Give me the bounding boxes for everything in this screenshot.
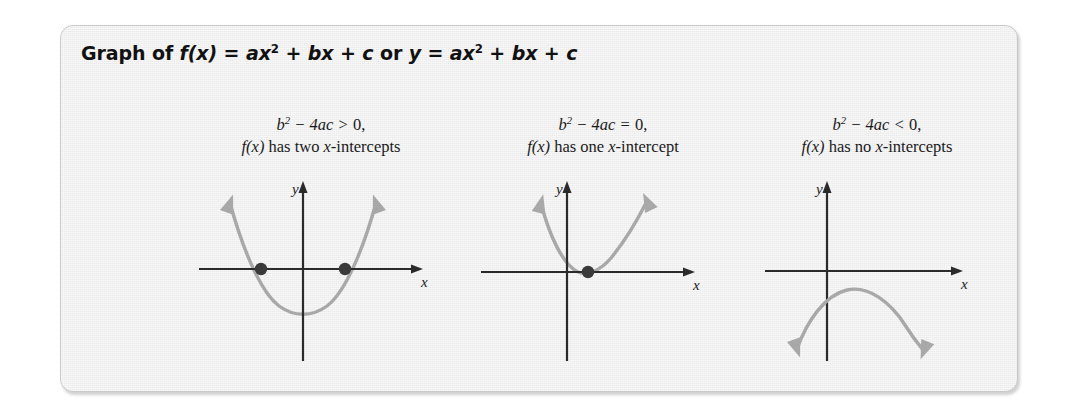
caption-two-intercepts: b2 − 4ac > 0, f(x) has two x-intercepts	[171, 114, 471, 159]
discriminant-b: b	[833, 115, 841, 134]
figure-panel: Graph of f(x) = ax2 + bx + c or y = ax2 …	[60, 25, 1018, 392]
discriminant-rest: − 4ac	[572, 115, 615, 134]
caption-line-2: f(x) has no x-intercepts	[727, 136, 1027, 158]
caption-line-1: b2 − 4ac > 0,	[171, 114, 471, 136]
x-axis	[765, 266, 963, 275]
caption-fn-arg: (x)	[532, 137, 550, 156]
x-axis	[199, 264, 423, 273]
title-expr1-a: ax	[246, 42, 271, 64]
case-one-intercept: b2 − 4ac = 0, f(x) has one x-intercept y…	[453, 114, 753, 363]
x-intercept-point	[582, 265, 594, 277]
title-prefix: Graph of	[81, 42, 180, 64]
caption-var-x: x	[324, 137, 331, 156]
caption-tail: -intercept	[616, 137, 679, 156]
caption-fn-arg: (x)	[806, 137, 824, 156]
title-expr2-exponent: 2	[475, 42, 483, 56]
caption-text: has two	[264, 137, 323, 156]
title-fn: f	[180, 42, 188, 64]
case-two-intercepts: b2 − 4ac > 0, f(x) has two x-intercepts	[171, 114, 471, 363]
page-title: Graph of f(x) = ax2 + bx + c or y = ax2 …	[81, 42, 577, 64]
title-fn-arg: (x)	[188, 42, 217, 64]
graph-one-intercept: y x	[475, 173, 715, 363]
x-axis-arrow	[411, 264, 423, 273]
y-axis-label: y	[554, 181, 563, 197]
x-axis-label: x	[960, 276, 968, 292]
caption-line-1: b2 − 4ac < 0,	[727, 114, 1027, 136]
x-axis-label: x	[692, 277, 700, 293]
discriminant-relation: <	[889, 115, 909, 134]
y-axis-arrow	[823, 181, 832, 193]
discriminant-relation: =	[615, 115, 635, 134]
discriminant-b: b	[559, 115, 567, 134]
caption-no-intercepts: b2 − 4ac < 0, f(x) has no x-intercepts	[727, 114, 1027, 159]
curve-arrow-left	[787, 337, 807, 360]
caption-one-intercept: b2 − 4ac = 0, f(x) has one x-intercept	[453, 114, 753, 159]
discriminant-rest: − 4ac	[846, 115, 889, 134]
caption-tail: -intercepts	[883, 137, 953, 156]
y-axis	[299, 181, 308, 361]
discriminant-relation: >	[333, 115, 353, 134]
caption-text: has no	[825, 137, 876, 156]
caption-fn-arg: (x)	[246, 137, 264, 156]
title-expr2-a: ax	[450, 42, 475, 64]
discriminant-b: b	[277, 115, 285, 134]
x-axis-arrow	[683, 267, 695, 276]
x-intercept-point-right	[339, 262, 351, 274]
curve-arrow-left	[532, 192, 550, 214]
curve-arrow-left	[220, 192, 240, 215]
caption-line-2: f(x) has two x-intercepts	[171, 136, 471, 158]
caption-text: has one	[550, 137, 608, 156]
x-intercept-point-left	[255, 262, 267, 274]
title-expr1-rest: + bx + c	[279, 42, 374, 64]
graph-no-intercepts: y x	[759, 173, 999, 363]
discriminant-value: 0,	[635, 115, 647, 134]
caption-var-x: x	[875, 137, 882, 156]
y-axis-label: y	[290, 181, 299, 197]
parabola-curve	[787, 289, 934, 362]
case-no-intercepts: b2 − 4ac < 0, f(x) has no x-intercepts y…	[727, 114, 1027, 363]
title-expr2-rest: + bx + c	[483, 42, 578, 64]
title-equals-2: =	[421, 42, 450, 64]
discriminant-rest: − 4ac	[290, 115, 333, 134]
caption-line-1: b2 − 4ac = 0,	[453, 114, 753, 136]
title-expr1-exponent: 2	[271, 42, 279, 56]
title-var-y: y	[409, 42, 421, 64]
caption-var-x: x	[608, 137, 615, 156]
curve-arrow-right	[637, 189, 658, 212]
curve-arrow-right	[366, 192, 386, 215]
caption-line-2: f(x) has one x-intercept	[453, 136, 753, 158]
y-axis-arrow	[563, 181, 572, 193]
x-axis-label: x	[420, 274, 428, 290]
x-axis-arrow	[951, 266, 963, 275]
y-axis-label: y	[814, 181, 823, 197]
parabola-curve	[532, 189, 658, 273]
discriminant-value: 0,	[353, 115, 365, 134]
title-equals-1: =	[217, 42, 246, 64]
discriminant-value: 0,	[909, 115, 921, 134]
title-conjunction: or	[373, 42, 408, 64]
caption-tail: -intercepts	[331, 137, 401, 156]
graph-two-intercepts: y x	[193, 173, 433, 363]
y-axis-arrow	[299, 181, 308, 193]
